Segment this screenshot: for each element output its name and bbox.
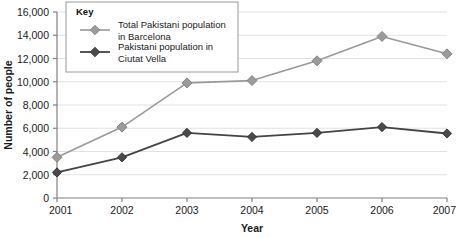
y-tick-label: 10,000 (17, 76, 49, 88)
chart-canvas: 02,0004,0006,0008,00010,00012,00014,0001… (0, 0, 467, 238)
legend-label-series-0-line1: Total Pakistani population (118, 19, 226, 30)
x-tick-label: 2001 (49, 204, 73, 216)
line-chart: 02,0004,0006,0008,00010,00012,00014,0001… (0, 0, 467, 238)
y-tick-label: 2,000 (23, 169, 49, 181)
x-tick-label: 2005 (305, 204, 329, 216)
x-tick-label: 2003 (175, 204, 199, 216)
y-tick-label: 16,000 (17, 6, 49, 18)
y-tick-label: 0 (43, 192, 49, 204)
y-tick-label: 4,000 (23, 146, 49, 158)
x-tick-label: 2002 (110, 204, 134, 216)
y-tick-label: 8,000 (23, 99, 49, 111)
x-axis-title: Year (241, 222, 263, 234)
chart-legend: Key Total Pakistani population in Barcel… (66, 2, 238, 72)
y-axis-title: Number of people (2, 60, 14, 149)
legend-title: Key (76, 6, 94, 17)
x-tick-label: 2007 (433, 204, 457, 216)
y-tick-label: 6,000 (23, 122, 49, 134)
y-tick-label: 14,000 (17, 29, 49, 41)
legend-label-series-1-line1: Pakistani population in (118, 41, 213, 52)
y-tick-label: 12,000 (17, 53, 49, 65)
legend-label-series-1-line2: Ciutat Vella (118, 53, 167, 64)
x-tick-label: 2004 (240, 204, 264, 216)
x-tick-label: 2006 (370, 204, 394, 216)
